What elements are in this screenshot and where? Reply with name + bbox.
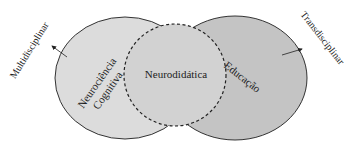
svg-text:Transdisciplinar: Transdisciplinar	[299, 9, 348, 67]
svg-text:Multidisciplinar: Multidisciplinar	[7, 19, 51, 80]
venn-diagram: Neurociência Cognitiva Neurodidática Edu…	[0, 0, 355, 146]
transdisciplinar-label: Transdisciplinar	[299, 9, 348, 67]
neurodidatica-label: Neurodidática	[145, 68, 207, 80]
multidisciplinar-label: Multidisciplinar	[7, 19, 51, 80]
